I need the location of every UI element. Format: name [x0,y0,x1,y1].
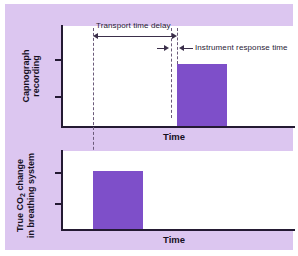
capnograph-y-axis-title-line1: Capnograph [21,50,31,103]
true-co2-y-axis-title: True CO2 change in breathing system [15,148,36,244]
capnograph-y-axis-title: Capnograph recording [21,28,41,124]
true-co2-x-axis-title: Time [163,234,185,245]
true-co2-y-tick-1 [55,172,62,174]
instrument-response-leader-left [157,48,165,49]
transport-delay-label: Transport time delay [96,21,171,30]
figure-card: Transport time delay Instrument response… [5,4,293,250]
dashed-line-response-start [171,28,172,118]
capnograph-x-axis [61,126,295,128]
true-co2-label-prefix: True CO [15,197,25,232]
true-co2-label-suffix: change [15,159,25,193]
true-co2-y-axis [61,150,63,231]
instrument-response-leader-right [184,48,193,49]
capnograph-y-tick-1 [55,59,62,61]
true-co2-step-bar [93,171,143,229]
figure-container: Transport time delay Instrument response… [0,0,298,256]
true-co2-x-axis [61,229,295,231]
capnograph-y-tick-2 [55,96,62,98]
true-co2-y-axis-title-line2: in breathing system [26,153,36,238]
instrument-response-label: Instrument response time [195,43,288,52]
transport-delay-arrow-head-left [93,33,98,39]
transport-delay-arrow-head-right [172,33,177,39]
capnograph-x-axis-title: Time [163,131,185,142]
true-co2-subscript: 2 [19,193,26,197]
capnograph-response-bar [177,64,227,126]
transport-delay-arrow-line [95,36,175,37]
dashed-line-plateau [177,28,178,64]
capnograph-y-axis [61,25,63,128]
true-co2-y-axis-title-line1: True CO2 change [15,159,25,232]
true-co2-y-tick-2 [55,203,62,205]
capnograph-y-axis-title-line2: recording [31,55,41,97]
